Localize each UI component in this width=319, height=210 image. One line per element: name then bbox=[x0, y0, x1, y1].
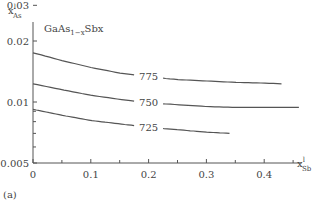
chart-title: GaAs1−xSbx bbox=[44, 23, 104, 37]
series-label-750: 750 bbox=[139, 97, 158, 108]
series-label-725: 725 bbox=[139, 122, 158, 133]
chart: 00.10.20.30.40.0050.010.020.03xlAsxlSbGa… bbox=[0, 0, 319, 210]
x-tick-label: 0.4 bbox=[256, 169, 272, 180]
y-tick-label: 0.01 bbox=[7, 97, 29, 108]
x-tick-label: 0.3 bbox=[198, 169, 214, 180]
series-line-725 bbox=[163, 129, 229, 134]
series-line-725 bbox=[33, 109, 134, 125]
x-tick-label: 0 bbox=[30, 169, 36, 180]
series-line-750 bbox=[163, 104, 299, 108]
series-line-750 bbox=[33, 84, 134, 101]
series-line-775 bbox=[163, 78, 281, 84]
series-line-775 bbox=[33, 53, 134, 75]
y-tick-label: 0.02 bbox=[7, 36, 29, 47]
y-tick-label: 0.005 bbox=[0, 158, 29, 169]
series-label-775: 775 bbox=[139, 71, 158, 82]
x-tick-label: 0.2 bbox=[141, 169, 157, 180]
panel-label: (a) bbox=[3, 189, 17, 200]
x-axis-label: xlSb bbox=[297, 156, 312, 173]
x-tick-label: 0.1 bbox=[83, 169, 99, 180]
